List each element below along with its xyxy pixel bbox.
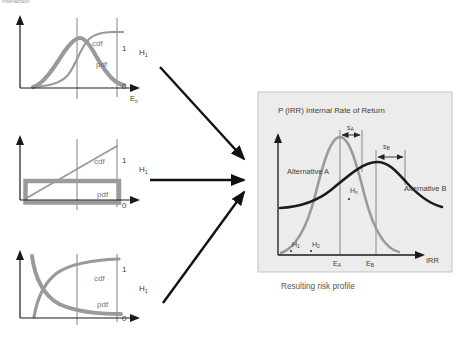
alternative-a-label: Alternative A [287,167,329,176]
result-panel-background [258,92,452,272]
diagram-svg: interaction cdf pdf 1 0 H1 Eit cdf pdf 1… [0,0,463,337]
result-panel: P (IRR) Internal Rate of Return sA sB Al… [258,92,452,272]
clipped-text-fragment: interaction [2,0,30,4]
one-tick-label: 1 [122,44,127,53]
result-chart-title: P (IRR) Internal Rate of Return [278,106,385,115]
one-tick-label: 1 [122,156,127,165]
hypothesis-h1-label: H1 [139,284,148,294]
sigma-b-label: sB [383,143,390,151]
one-tick-label: 1 [122,265,127,274]
h2-point [310,250,312,252]
exponential-distribution-chart: cdf pdf 1 0 H1 [20,252,148,325]
h1-point [290,250,292,252]
zero-tick-label: 0 [122,82,127,91]
hypothesis-h1-label: H1 [139,48,148,58]
zero-tick-label: 0 [122,314,127,323]
cdf-label: cdf [92,39,103,48]
h1-label: H1 [292,241,300,249]
cdf-label: cdf [94,157,105,166]
sigma-a-label: sA [347,124,354,132]
uniform-distribution-chart: cdf pdf 1 0 H1 [20,137,148,210]
hn-point [348,198,350,200]
x-axis-label-eit: Eit [130,94,138,104]
zero-tick-label: 0 [122,201,127,210]
h2-label: H2 [312,241,320,249]
alternative-b-label: Alternative B [404,184,447,193]
pdf-label: pdf [96,60,108,69]
cdf-label: cdf [94,274,105,283]
arrow-exponential-to-result [163,192,244,303]
converging-arrows [150,67,244,303]
irr-axis-label: IRR [426,256,440,265]
arrow-normal-to-result [160,67,244,159]
hn-label: Hn [350,187,358,195]
pdf-label: pdf [97,190,109,199]
result-caption: Resulting risk profile [281,282,355,291]
diagram-canvas: interaction cdf pdf 1 0 H1 Eit cdf pdf 1… [0,0,463,337]
pdf-label: pdf [97,300,109,309]
hypothesis-h1-label: H1 [139,165,148,175]
normal-distribution-chart: cdf pdf 1 0 H1 Eit [20,17,148,104]
pdf-curve [33,38,124,87]
